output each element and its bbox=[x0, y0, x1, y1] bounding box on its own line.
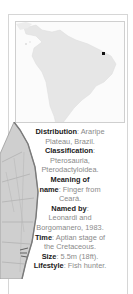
named-by-value: Leonardi and bbox=[14, 213, 126, 223]
distribution-map bbox=[15, 21, 125, 123]
classification-colon: : bbox=[93, 146, 95, 155]
fact-time: Time: Aptian stage of bbox=[14, 233, 126, 243]
fact-named-by: Named by: bbox=[14, 204, 126, 214]
location-marker-icon bbox=[102, 52, 105, 55]
fact-list: Distribution: Araripe Plateau, Brazil. C… bbox=[14, 127, 126, 271]
time-label: Time bbox=[35, 233, 52, 242]
time-value-cont: the Cretaceous. bbox=[14, 242, 126, 252]
classification-label: Classification bbox=[45, 146, 93, 155]
lifestyle-value: : Fish hunter. bbox=[64, 261, 107, 270]
named-by-value-cont: Borgomanero, 1983. bbox=[14, 223, 126, 233]
time-value: : Aptian stage of bbox=[52, 233, 105, 242]
fact-meaning-cont: name: Finger from bbox=[14, 185, 126, 195]
classification-value-cont: Pterodactyloidea. bbox=[14, 165, 126, 175]
lifestyle-label: Lifestyle bbox=[34, 261, 64, 270]
meaning-label: Meaning of bbox=[50, 175, 89, 184]
south-america-map-icon bbox=[16, 22, 125, 123]
fact-distribution: Distribution: Araripe bbox=[14, 127, 126, 137]
named-by-label: Named by bbox=[51, 204, 86, 213]
size-label: Size bbox=[42, 252, 57, 261]
distribution-value-cont: Plateau, Brazil. bbox=[14, 137, 126, 147]
fact-size: Size: 5.5m (18ft). bbox=[14, 252, 126, 262]
classification-value: Pterosauria, bbox=[14, 156, 126, 166]
fact-classification: Classification: bbox=[14, 146, 126, 156]
fact-meaning: Meaning of bbox=[14, 175, 126, 185]
size-value: : 5.5m (18ft). bbox=[56, 252, 98, 261]
meaning-label-cont: name bbox=[39, 185, 58, 194]
meaning-value: : Finger from bbox=[59, 185, 101, 194]
named-by-colon: : bbox=[87, 204, 89, 213]
distribution-label: Distribution bbox=[36, 127, 77, 136]
fact-lifestyle: Lifestyle: Fish hunter. bbox=[14, 261, 126, 271]
distribution-value: : Araripe bbox=[77, 127, 105, 136]
meaning-value-cont: Ceará. bbox=[14, 194, 126, 204]
